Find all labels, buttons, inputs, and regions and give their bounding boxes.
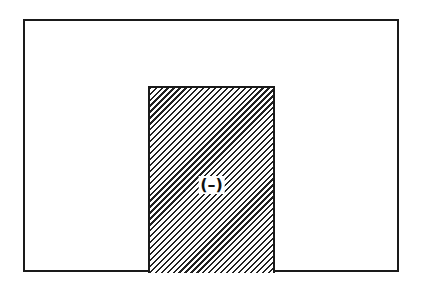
hatched-region: (–) bbox=[148, 86, 275, 273]
region-label: (–) bbox=[198, 176, 225, 194]
